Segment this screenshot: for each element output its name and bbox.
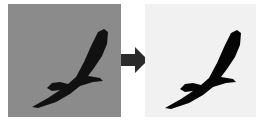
output-image-panel [145,4,256,117]
right-arrow-icon [121,47,148,73]
bird-silhouette-icon [8,4,121,117]
bird-silhouette-icon [145,4,256,117]
input-image-panel [8,4,121,117]
